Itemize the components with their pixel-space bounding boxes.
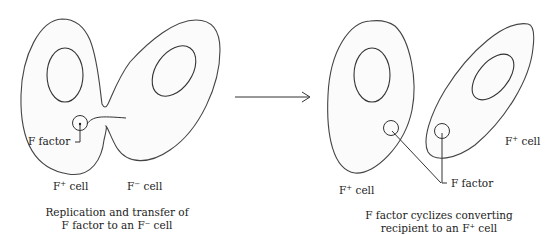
original-fplus-cell-membrane — [328, 21, 414, 173]
label-f-factor-left: F factor — [28, 135, 71, 147]
conjugation-diagram: F factor F+ cell F− cell Replication and… — [0, 0, 556, 235]
caption-left-line2: F factor to an F⁻ cell — [62, 219, 173, 231]
label-fplus-cell-left: F+ cell — [53, 180, 89, 192]
arrow-right-icon — [235, 92, 310, 102]
caption-right-line2: recipient to an F⁺ cell — [381, 222, 498, 234]
conjugating-cells — [21, 19, 220, 175]
fplus-donor-cell-membrane — [21, 19, 220, 175]
f-factor-dot — [79, 123, 81, 125]
label-fplus-cell-center: F+ cell — [339, 184, 375, 196]
label-fminus-cell: F− cell — [127, 180, 163, 192]
label-fplus-cell-right: F+ cell — [505, 135, 541, 147]
separated-cells — [328, 21, 534, 183]
caption-right-line1: F factor cyclizes converting — [365, 209, 513, 221]
caption-left-line1: Replication and transfer of — [45, 206, 189, 218]
label-f-factor-right: F factor — [451, 177, 494, 189]
